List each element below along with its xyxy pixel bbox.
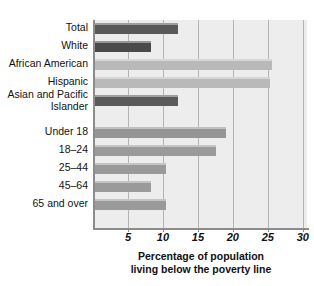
bar-face (95, 59, 272, 70)
bar-shadow (98, 210, 169, 213)
category-label: Total (66, 22, 88, 33)
category-label: 25–44 (59, 162, 88, 173)
bar-shadow-right (166, 202, 169, 213)
bar-highlight (95, 59, 272, 61)
x-tick-label: 10 (157, 231, 169, 243)
bar-shadow (98, 88, 273, 91)
bar-highlight (95, 41, 151, 43)
bar-shadow (98, 52, 154, 55)
bar-shadow-right (151, 184, 154, 195)
bar-face (95, 199, 166, 210)
bar-shadow-right (178, 26, 181, 37)
bar-face (95, 145, 216, 156)
chart-row: 65 and over (0, 196, 314, 214)
chart-row: African American (0, 56, 314, 74)
chart-row: Total (0, 20, 314, 38)
bar-shadow (98, 174, 169, 177)
bar (95, 23, 178, 34)
bar-shadow-right (216, 148, 219, 159)
category-label: 18–24 (59, 144, 88, 155)
bar-shadow-right (226, 130, 229, 141)
bar (95, 59, 272, 70)
chart-row: Asian and Pacific Islander (0, 92, 314, 110)
bar-shadow-right (270, 80, 273, 91)
bar-highlight (95, 127, 226, 129)
bar-highlight (95, 77, 270, 79)
chart-row: White (0, 38, 314, 56)
x-axis-title-line1: Percentage of population (88, 250, 314, 263)
x-tick-label: 5 (125, 231, 131, 243)
bar-highlight (95, 23, 178, 25)
bar-face (95, 23, 178, 34)
category-label: Hispanic (48, 76, 88, 87)
bar (95, 95, 178, 106)
category-label: 65 and over (33, 198, 88, 209)
tick-mark-30 (303, 228, 304, 232)
x-tick-label: 20 (227, 231, 239, 243)
tick-mark-10 (163, 228, 164, 232)
x-axis-tick-labels: 51015202530 (0, 231, 314, 247)
category-label: African American (9, 58, 88, 69)
bar-highlight (95, 145, 216, 147)
bar-face (95, 163, 166, 174)
bar-face (95, 181, 151, 192)
tick-mark-5 (128, 228, 129, 232)
bar (95, 145, 216, 156)
x-axis-line (93, 228, 309, 230)
chart-row: Under 18 (0, 124, 314, 142)
bar-shadow (98, 156, 219, 159)
bar (95, 199, 166, 210)
category-label: Under 18 (45, 126, 88, 137)
bar-shadow (98, 70, 275, 73)
bar-shadow (98, 138, 229, 141)
tick-mark-15 (198, 228, 199, 232)
bar-shadow-right (166, 166, 169, 177)
category-label: 45–64 (59, 180, 88, 191)
bar-shadow-right (272, 62, 275, 73)
bar-highlight (95, 95, 178, 97)
x-tick-label: 25 (262, 231, 274, 243)
x-axis-title: Percentage of population living below th… (88, 250, 314, 276)
tick-mark-20 (233, 228, 234, 232)
bar-face (95, 95, 178, 106)
chart-row: 25–44 (0, 160, 314, 178)
bar (95, 41, 151, 52)
bar (95, 163, 166, 174)
bar (95, 77, 270, 88)
chart-row: 45–64 (0, 178, 314, 196)
bar-shadow (98, 192, 154, 195)
bar-shadow-right (151, 44, 154, 55)
poverty-bar-chart: TotalWhiteAfrican AmericanHispanicAsian … (0, 0, 314, 286)
bar-highlight (95, 199, 166, 201)
tick-mark-25 (268, 228, 269, 232)
bar (95, 127, 226, 138)
bar-face (95, 77, 270, 88)
bar-shadow (98, 34, 181, 37)
x-tick-label: 30 (297, 231, 309, 243)
x-tick-label: 15 (192, 231, 204, 243)
bar (95, 181, 151, 192)
bar-face (95, 127, 226, 138)
category-label: Asian and Pacific Islander (0, 89, 88, 112)
bar-shadow-right (178, 98, 181, 109)
bar-face (95, 41, 151, 52)
chart-row: 18–24 (0, 142, 314, 160)
bar-highlight (95, 181, 151, 183)
category-label: White (61, 40, 88, 51)
x-axis-title-line2: living below the poverty line (88, 263, 314, 276)
bar-highlight (95, 163, 166, 165)
bar-shadow (98, 106, 181, 109)
